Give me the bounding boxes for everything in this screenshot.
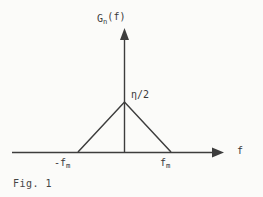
x-tick-label-negative-fm: -fm (54, 158, 70, 170)
x-tick-neg-subscript: m (66, 161, 70, 170)
x-axis-arrowhead (212, 148, 224, 158)
x-tick-label-positive-fm: fm (160, 158, 170, 170)
figure-caption: Fig. 1 (13, 179, 52, 189)
y-axis-arrowhead (120, 28, 129, 40)
x-axis-label: f (237, 146, 243, 156)
figure-container: Gn(f) η/2 -fm fm f Fig. 1 (0, 0, 263, 197)
x-tick-pos-subscript: m (166, 161, 170, 170)
y-axis-label-arg: (f) (107, 11, 125, 22)
y-axis-label: Gn(f) (97, 12, 125, 25)
peak-value-label: η/2 (131, 90, 149, 100)
x-tick-neg-base: -f (54, 157, 66, 168)
